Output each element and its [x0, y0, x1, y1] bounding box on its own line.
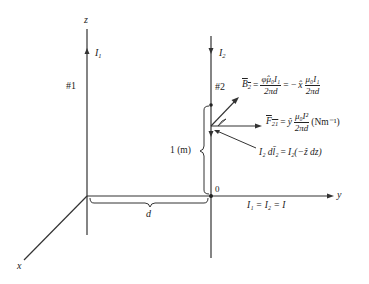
dl2-equation: I₂ dl̄₂ = I₂(−ẑ dz) — [259, 148, 322, 158]
separation-label: d — [146, 209, 151, 219]
f21-vector-arrow-icon — [255, 124, 262, 129]
z-axis-label: z — [84, 15, 88, 25]
x-axis — [24, 196, 87, 260]
b2-lhs: B2 — [242, 80, 251, 91]
y-axis-arrow-icon — [327, 194, 334, 199]
y-axis-label: y — [337, 190, 341, 200]
dl2-pointer-line — [217, 131, 256, 148]
origin-dot — [209, 194, 213, 198]
separation-brace — [90, 198, 208, 207]
origin-label: 0 — [215, 185, 220, 194]
segment-top-dot — [209, 103, 213, 107]
f21-fraction: μ₀I²2πd — [294, 112, 309, 133]
dl2-arrow-icon — [209, 131, 214, 137]
wire-2-number-label: #2 — [215, 82, 225, 92]
wire-1-current-label: I1 — [95, 48, 102, 60]
currents-equal-label: I₁ = I₂ = I — [247, 201, 285, 211]
diagram-canvas — [0, 0, 369, 284]
wire-1-number-label: #1 — [66, 81, 76, 91]
b2-fraction-2: μ₀I₁2πd — [305, 75, 321, 96]
x-axis-label: x — [17, 261, 21, 271]
wire-2-current-label: I2 — [219, 48, 226, 60]
b2-equation: B2 = φ̂μ₀I₁2πd = − x̂ μ₀I₁2πd — [242, 75, 320, 96]
wire-1-current-arrow-icon — [85, 48, 90, 54]
wire-2-current-arrow-icon — [209, 48, 214, 54]
f21-lhs: F21 — [266, 117, 278, 128]
segment-length-brace — [200, 106, 209, 194]
b2-vector — [211, 100, 236, 126]
f21-equation: F21 = ŷ μ₀I²2πd (Nm⁻¹) — [266, 112, 340, 133]
b2-fraction-1: φ̂μ₀I₁2πd — [260, 75, 281, 96]
segment-length-label: 1 (m) — [170, 146, 191, 156]
